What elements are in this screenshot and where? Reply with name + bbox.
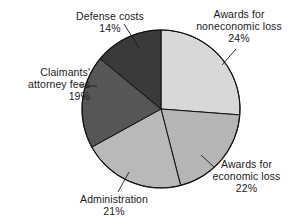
pie-label-awards-economic-loss-value: 22% xyxy=(196,182,297,194)
pie-label-awards-economic-loss-text-1: Awards for xyxy=(196,158,297,170)
pie-label-awards-economic-loss: Awards for economic loss 22% xyxy=(196,158,297,195)
pie-label-administration-text: Administration xyxy=(58,193,170,205)
pie-label-awards-noneconomic-loss-text-1: Awards for xyxy=(180,8,298,20)
pie-label-administration: Administration 21% xyxy=(58,193,170,217)
pie-label-awards-noneconomic-loss: Awards for noneconomic loss 24% xyxy=(180,8,298,45)
pie-chart: Defense costs 14% Awards for noneconomic… xyxy=(0,0,299,224)
pie-label-claimants-attorney-fees-value: 19% xyxy=(2,90,90,102)
pie-label-defense-costs: Defense costs 14% xyxy=(62,10,158,34)
pie-label-claimants-attorney-fees-text-2: attorney fees xyxy=(2,78,90,90)
pie-label-awards-noneconomic-loss-text-2: noneconomic loss xyxy=(180,20,298,32)
pie-label-defense-costs-value: 14% xyxy=(62,22,158,34)
pie-label-claimants-attorney-fees-text-1: Claimants' xyxy=(2,66,90,78)
pie-label-awards-noneconomic-loss-value: 24% xyxy=(180,32,298,44)
pie-label-defense-costs-text: Defense costs xyxy=(62,10,158,22)
leader-line-noneconomic-loss xyxy=(222,49,236,65)
pie-label-awards-economic-loss-text-2: economic loss xyxy=(196,170,297,182)
pie-label-administration-value: 21% xyxy=(58,205,170,217)
pie-label-claimants-attorney-fees: Claimants' attorney fees 19% xyxy=(2,66,90,103)
